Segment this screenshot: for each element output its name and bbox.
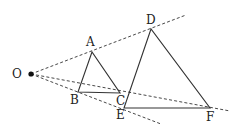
triangle-def (124, 29, 210, 108)
label-c: C (116, 94, 125, 108)
center-point-o (28, 71, 33, 76)
label-f: F (206, 110, 214, 124)
label-a: A (85, 35, 95, 49)
label-b: B (70, 93, 79, 107)
label-d: D (146, 13, 156, 27)
geometry-diagram: O A B C D E F (0, 0, 238, 133)
label-o: O (12, 67, 22, 81)
label-e: E (116, 108, 125, 122)
ray-oc (31, 74, 230, 111)
ray-ob (31, 74, 161, 124)
